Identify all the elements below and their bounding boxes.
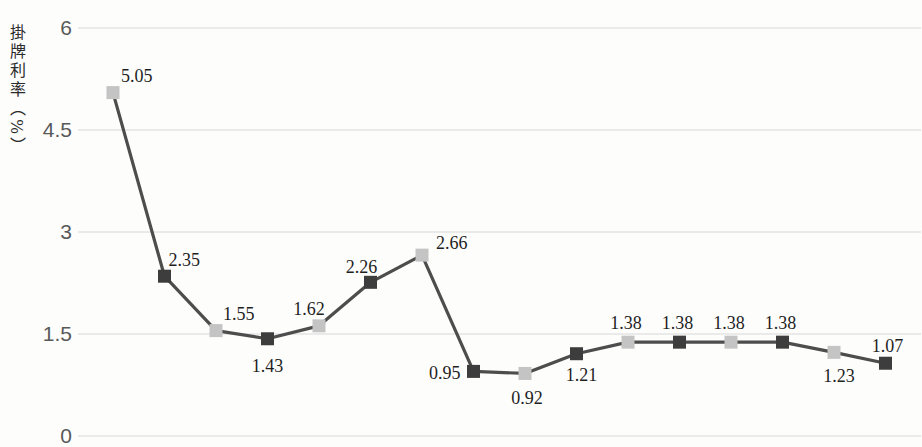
data-point-marker [313,319,326,332]
data-point-label: 2.26 [346,257,378,277]
data-point-marker [673,336,686,349]
data-point-label: 1.38 [610,313,642,333]
data-point-label: 1.43 [252,356,284,376]
data-point-marker [828,346,841,359]
data-point-label: 1.55 [223,304,255,324]
data-point-marker [776,336,789,349]
data-point-label: 5.05 [121,66,153,86]
data-point-marker [879,357,892,370]
data-point-marker [364,276,377,289]
data-point-label: 2.66 [436,233,468,253]
data-point-marker [725,336,738,349]
data-point-marker [519,367,532,380]
data-point-label: 0.92 [511,388,543,408]
data-point-label: 1.21 [566,365,598,385]
data-point-marker [107,86,120,99]
data-point-label: 1.07 [872,336,904,356]
interest-rate-line-chart: 掛牌利率（%） 64.531.505.052.351.551.431.622.2… [0,0,922,447]
data-point-marker [467,365,480,378]
line-chart-canvas: 64.531.505.052.351.551.431.622.262.660.9… [0,0,922,447]
data-point-label: 0.95 [429,363,461,383]
data-point-marker [210,324,223,337]
data-point-label: 1.62 [293,299,325,319]
data-point-marker [416,249,429,262]
data-point-label: 1.38 [662,313,694,333]
data-point-marker [158,270,171,283]
y-tick-label: 0 [60,424,72,447]
y-tick-label: 1.5 [43,322,72,345]
y-tick-label: 3 [60,220,72,243]
data-point-marker [622,336,635,349]
data-point-label: 2.35 [169,250,201,270]
data-point-label: 1.38 [713,313,745,333]
y-tick-label: 6 [60,16,72,39]
data-point-marker [261,332,274,345]
y-axis-title: 掛牌利率（%） [8,24,24,156]
data-point-label: 1.23 [823,366,855,386]
y-tick-label: 4.5 [43,118,72,141]
data-point-label: 1.38 [765,313,797,333]
data-point-marker [570,347,583,360]
